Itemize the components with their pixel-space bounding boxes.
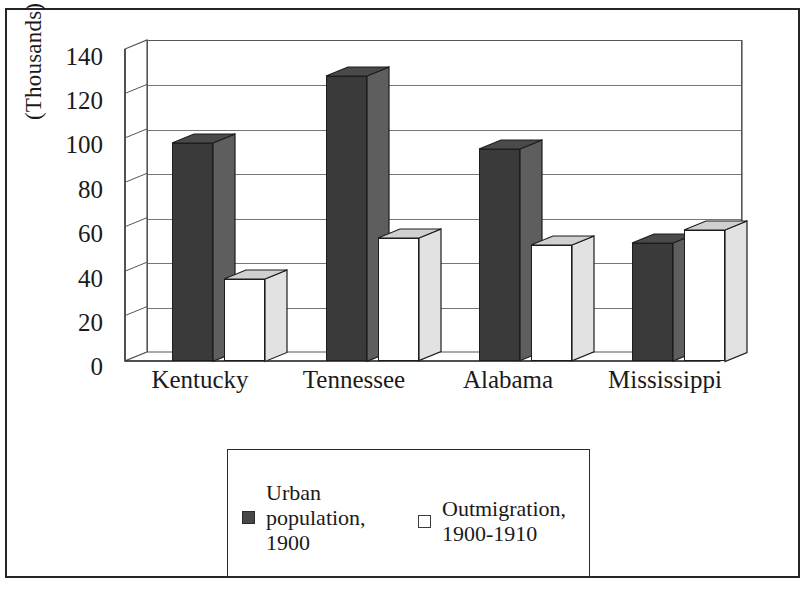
bar-front-face	[378, 238, 419, 361]
legend-label-line1: Outmigration,	[442, 496, 566, 521]
legend-label-urban-population: Urban population, 1900	[266, 480, 366, 555]
category-label-kentucky: Kentucky	[125, 367, 275, 393]
legend-label-line1: Urban	[266, 480, 366, 505]
bar-side-face	[725, 221, 747, 361]
bar-kentucky-outmigration-1900-1910	[224, 270, 287, 361]
gridline-120	[148, 85, 741, 86]
category-label-mississippi: Mississippi	[585, 367, 745, 393]
bar-tennessee-outmigration-1900-1910	[378, 229, 441, 361]
legend-swatch-white-square-icon	[418, 515, 431, 528]
y-tick-40: 40	[43, 266, 103, 291]
category-label-tennessee: Tennessee	[279, 367, 429, 393]
legend-swatch-dark-square-icon	[242, 511, 255, 524]
bar-side-face	[419, 229, 441, 361]
legend-label-line3: 1900	[266, 530, 366, 555]
y-tick-120: 120	[43, 88, 103, 113]
bar-front-face	[632, 243, 673, 361]
legend-label-line2: 1900-1910	[442, 521, 566, 546]
y-tick-100: 100	[43, 132, 103, 157]
plot-area: (Thousands) 140 120 100 80 60 40 20 0	[7, 10, 802, 410]
legend-label-line2: population,	[266, 505, 366, 530]
legend-item-urban-population: Urban population, 1900	[242, 480, 366, 555]
y-tick-140: 140	[43, 44, 103, 69]
chart-border-frame: (Thousands) 140 120 100 80 60 40 20 0	[5, 8, 800, 578]
bar-front-face	[326, 76, 367, 361]
bar-mississippi-outmigration-1900-1910	[684, 221, 747, 361]
y-tick-0: 0	[43, 354, 103, 379]
bar-side-face	[265, 270, 287, 361]
bar-front-face	[172, 143, 213, 361]
category-label-alabama: Alabama	[433, 367, 583, 393]
bar-side-face	[572, 236, 594, 361]
y-tick-20: 20	[43, 310, 103, 335]
bar-front-face	[224, 279, 265, 361]
bar-alabama-outmigration-1900-1910	[531, 236, 594, 361]
bar-front-face	[531, 245, 572, 361]
chart-legend: Urban population, 1900 Outmigration, 190…	[227, 449, 590, 577]
legend-label-outmigration: Outmigration, 1900-1910	[442, 496, 566, 546]
y-tick-80: 80	[43, 177, 103, 202]
bar-front-face	[479, 149, 520, 361]
bar-front-face	[684, 230, 725, 361]
legend-item-outmigration: Outmigration, 1900-1910	[418, 496, 566, 546]
gridline-100	[148, 130, 741, 131]
y-tick-60: 60	[43, 221, 103, 246]
